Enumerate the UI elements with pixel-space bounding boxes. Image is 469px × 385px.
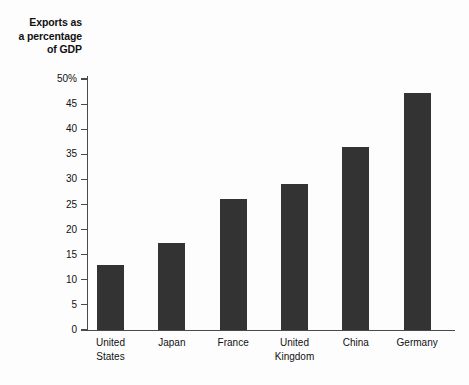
y-axis-tick-label: 10 [33,275,77,285]
bar [342,147,369,330]
y-axis-tick-label: 0 [33,325,77,335]
y-axis-tick-label: 20 [33,225,77,235]
y-axis-labels: 05101520253035404550% [30,0,77,385]
y-axis-tick-label: 45 [33,99,77,109]
y-axis-tick-label: 30 [33,174,77,184]
bar [158,243,185,330]
bars-layer [87,79,455,330]
y-axis-tick-label: 25 [33,200,77,210]
x-axis-category-label-line: Germany [372,336,462,350]
bar [220,199,247,330]
x-axis-category-label: Germany [372,336,462,350]
y-axis-tick-label: 5 [33,300,77,310]
y-axis-tick-label: 40 [33,124,77,134]
bar [404,93,431,330]
bar [281,184,308,330]
y-axis-tick-label: 35 [33,149,77,159]
x-axis-line [87,330,455,331]
bar [97,265,124,330]
bar-chart: Exports as a percentage of GDP 051015202… [0,0,469,385]
y-axis-tick-label: 50% [33,74,77,84]
x-axis-category-label-line: States [66,350,156,364]
x-axis-labels: UnitedStatesJapanFranceUnitedKingdomChin… [87,336,455,381]
y-axis-tick-label: 15 [33,250,77,260]
x-axis-category-label-line: Kingdom [250,350,340,364]
